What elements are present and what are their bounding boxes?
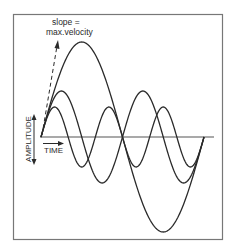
- slope-label: slope =: [52, 17, 80, 27]
- frame: [14, 15, 223, 240]
- time-label: TIME: [44, 146, 63, 155]
- max-velocity-label: max.velocity: [46, 27, 94, 37]
- amplitude-label: AMPLITUDE: [24, 116, 33, 162]
- slope-arrowhead-icon: [55, 40, 60, 49]
- wave-diagram: slope = max.velocity AMPLITUDE TIME: [0, 0, 236, 250]
